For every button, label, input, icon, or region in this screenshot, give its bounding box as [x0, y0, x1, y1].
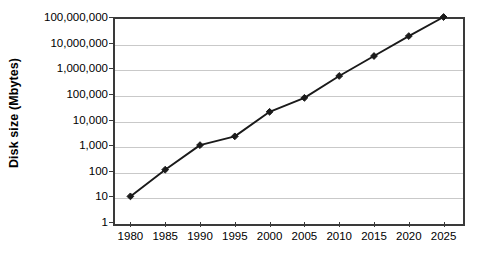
x-axis-tick-label: 2000 [257, 230, 283, 242]
y-axis-tick-label: 100,000 [8, 88, 113, 100]
x-axis-tick-label: 1990 [187, 230, 213, 242]
x-axis-tick-label: 2015 [361, 230, 387, 242]
y-axis-tick-label: 10,000,000 [8, 37, 113, 49]
x-axis-tick-label: 1980 [118, 230, 144, 242]
y-axis-tick-label: 1 [8, 216, 113, 228]
y-axis-tick-labels: 100,000,00010,000,0001,000,000100,00010,… [8, 0, 113, 263]
y-axis-tick-label: 1,000 [8, 139, 113, 151]
x-axis-tick-mark [304, 222, 305, 227]
gridline [115, 147, 463, 148]
x-axis-tick-mark [235, 222, 236, 227]
x-axis-tick-mark [270, 222, 271, 227]
x-axis-tick-marks [113, 222, 461, 228]
x-axis-tick-label: 2025 [431, 230, 457, 242]
x-axis-tick-mark [409, 222, 410, 227]
y-axis-tick-mark [109, 171, 113, 172]
y-axis-tick-mark [109, 68, 113, 69]
gridline [115, 122, 463, 123]
y-axis-tick-mark [109, 43, 113, 44]
gridline [115, 45, 463, 46]
y-axis-tick-mark [109, 17, 113, 18]
plot-area [113, 17, 465, 226]
x-axis-tick-label: 1985 [152, 230, 178, 242]
x-axis-tick-mark [339, 222, 340, 227]
gridlines [115, 19, 463, 224]
x-axis-tick-labels: 1980198519901995200020052010201520202025 [113, 230, 461, 250]
y-axis-tick-label: 100 [8, 165, 113, 177]
x-axis-tick-label: 2020 [396, 230, 422, 242]
gridline [115, 173, 463, 174]
y-axis-tick-label: 10,000 [8, 114, 113, 126]
y-axis-tick-label: 10 [8, 190, 113, 202]
x-axis-tick-mark [130, 222, 131, 227]
y-axis-tick-mark [109, 94, 113, 95]
y-axis-tick-marks [113, 17, 114, 222]
gridline [115, 70, 463, 71]
x-axis-tick-label: 1995 [222, 230, 248, 242]
x-axis-tick-mark [374, 222, 375, 227]
gridline [115, 96, 463, 97]
y-axis-tick-mark [109, 145, 113, 146]
x-axis-tick-mark [165, 222, 166, 227]
gridline [115, 198, 463, 199]
x-axis-tick-mark [200, 222, 201, 227]
y-axis-tick-mark [109, 120, 113, 121]
y-axis-tick-label: 1,000,000 [8, 62, 113, 74]
x-axis-tick-mark [444, 222, 445, 227]
disk-size-chart: Disk size (Mbytes) 100,000,00010,000,000… [0, 0, 477, 263]
x-axis-tick-label: 2010 [326, 230, 352, 242]
x-axis-tick-label: 2005 [292, 230, 318, 242]
y-axis-tick-label: 100,000,000 [8, 11, 113, 23]
y-axis-tick-mark [109, 196, 113, 197]
